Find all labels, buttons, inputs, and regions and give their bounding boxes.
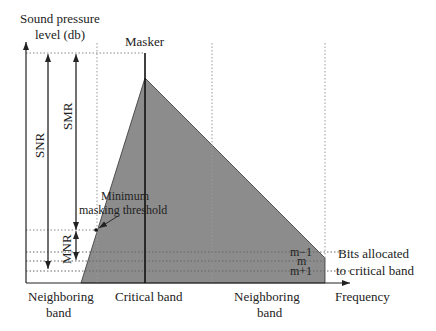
min-threshold-label-line1: Minimum bbox=[101, 189, 150, 203]
mnr-label: MNR bbox=[59, 234, 74, 264]
bits-allocated-label-line1: Bits allocated bbox=[338, 246, 410, 261]
band-center-label: Critical band bbox=[115, 289, 183, 304]
masker-label: Masker bbox=[125, 34, 165, 49]
level-m-plus-1-label: m+1 bbox=[290, 264, 312, 278]
min-threshold-label-line2: masking threshold bbox=[79, 203, 167, 217]
smr-label: SMR bbox=[60, 102, 75, 130]
y-axis-label-line2: level (db) bbox=[35, 27, 85, 42]
band-left-label-line2: band bbox=[46, 305, 72, 320]
band-right-label-line1: Neighboring bbox=[234, 289, 300, 304]
min-threshold-point bbox=[94, 228, 98, 232]
snr-label: SNR bbox=[32, 132, 47, 158]
band-left-label-line1: Neighboring bbox=[28, 289, 94, 304]
x-axis-label: Frequency bbox=[335, 289, 390, 304]
band-right-label-line2: band bbox=[257, 305, 283, 320]
y-axis-label-line1: Sound pressure bbox=[20, 11, 100, 26]
masking-diagram: Sound pressure level (db) Masker SNR SMR… bbox=[0, 0, 436, 331]
bits-allocated-label-line2: to critical band bbox=[336, 263, 414, 278]
